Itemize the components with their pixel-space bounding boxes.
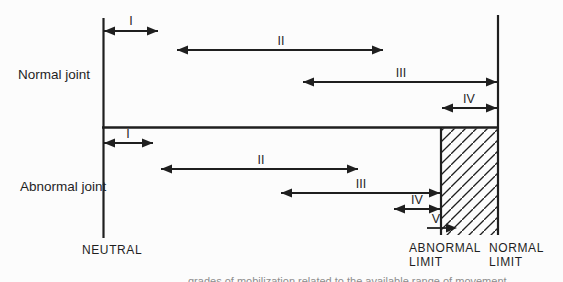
arrowhead-left	[177, 46, 188, 55]
arrowhead-left	[394, 205, 405, 214]
arrowhead-left	[281, 189, 292, 198]
normal-grade-1-label: I	[129, 14, 132, 28]
grades-diagram: Normal joint Abnormal joint I II III IV	[0, 0, 563, 282]
arrowhead-left	[161, 165, 172, 174]
normal-limit-label-line2: LIMIT	[489, 255, 523, 269]
abnormal-grade-4-arrow: IV	[394, 193, 440, 214]
normal-grade-4-label: IV	[463, 92, 475, 106]
abnormal-grade-1-arrow: I	[104, 127, 153, 148]
figure-canvas: Normal joint Abnormal joint I II III IV	[0, 0, 563, 282]
normal-grade-3-arrow: III	[303, 66, 497, 87]
arrowhead-right	[347, 165, 358, 174]
abnormal-grade-3-label: III	[356, 177, 366, 191]
normal-grade-2-label: II	[278, 34, 285, 48]
normal-grade-3-label: III	[396, 66, 406, 80]
abnormal-grade-1-label: I	[126, 127, 129, 141]
normal-grade-4-arrow: IV	[442, 92, 497, 113]
arrowhead-left	[303, 78, 314, 87]
hatched-restriction-area	[442, 129, 497, 236]
normal-grade-2-arrow: II	[177, 34, 383, 55]
normal-joint-label: Normal joint	[18, 67, 90, 82]
arrowhead-left	[104, 139, 115, 148]
neutral-label: NEUTRAL	[82, 243, 142, 257]
normal-limit-label-line1: NORMAL	[489, 241, 544, 255]
abnormal-limit-label-line1: ABNORMAL	[409, 241, 481, 255]
abnormal-grade-2-arrow: II	[161, 153, 358, 174]
abnormal-grade-5-label: V	[432, 212, 441, 226]
arrowhead-right	[486, 78, 497, 87]
arrowhead-left	[104, 27, 115, 36]
abnormal-limit-label-line2: LIMIT	[409, 255, 443, 269]
arrowhead-right	[429, 189, 440, 198]
caption-fragment: grades of mobilization related to the av…	[188, 275, 560, 282]
abnormal-joint-label: Abnormal joint	[20, 179, 107, 194]
arrowhead-left	[442, 104, 453, 113]
abnormal-grade-2-label: II	[258, 153, 265, 167]
arrowhead-right	[147, 27, 158, 36]
arrowhead-right	[372, 46, 383, 55]
normal-grade-1-arrow: I	[104, 14, 158, 36]
arrowhead-right	[486, 104, 497, 113]
abnormal-grade-4-label: IV	[411, 193, 423, 207]
arrowhead-right	[142, 139, 153, 148]
